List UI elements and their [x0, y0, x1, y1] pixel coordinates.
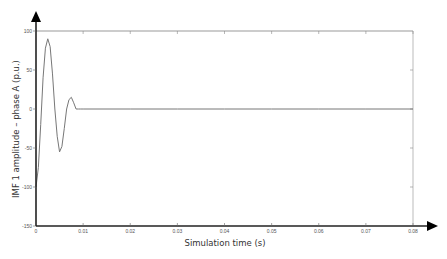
chart: 00.010.020.030.040.050.060.070.08 100500…: [0, 0, 447, 259]
y-tick-label: 50: [26, 67, 32, 73]
x-tick-label: 0.02: [125, 228, 135, 234]
x-axis-arrow-icon: [427, 221, 438, 231]
x-tick-label: 0.07: [361, 228, 371, 234]
y-tick-label: 0: [29, 106, 32, 112]
x-tick-label: 0.05: [267, 228, 277, 234]
x-tick-label: 0: [35, 228, 38, 234]
y-ticks: 100500-50-100-150: [22, 28, 36, 229]
y-axis-arrow-icon: [31, 11, 41, 22]
x-tick-label: 0.01: [78, 228, 88, 234]
x-axis-title: Simulation time (s): [185, 238, 266, 248]
y-tick-label: -50: [25, 145, 32, 151]
series-line-imf1: [36, 39, 413, 187]
y-axis: [31, 11, 41, 226]
x-axis: [36, 221, 438, 231]
right-ticks: [410, 70, 413, 187]
x-tick-label: 0.04: [220, 228, 230, 234]
y-tick-label: 100: [24, 28, 33, 34]
x-ticks: 00.010.020.030.040.050.060.070.08: [35, 223, 418, 234]
y-tick-label: -150: [22, 223, 32, 229]
x-tick-label: 0.08: [408, 228, 418, 234]
y-axis-title: IMF 1 amplitude – phase A (p.u.): [11, 60, 21, 198]
x-tick-label: 0.06: [314, 228, 324, 234]
y-tick-label: -100: [22, 184, 32, 190]
x-tick-label: 0.03: [173, 228, 183, 234]
plot-frame: [36, 31, 413, 226]
